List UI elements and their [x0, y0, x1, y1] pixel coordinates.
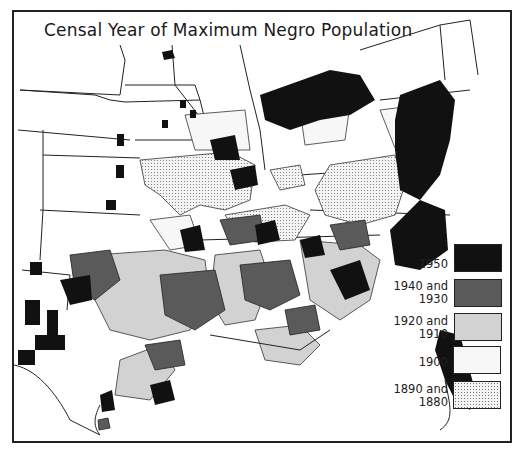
map-title: Censal Year of Maximum Negro Population [44, 20, 412, 40]
legend-swatch-1890-1880 [453, 381, 501, 409]
legend-label-1940-1930: 1940 and1930 [378, 280, 448, 306]
legend-label-1900: 1900 [378, 356, 448, 369]
legend-swatch-1940-1930 [454, 279, 502, 307]
legend-swatch-1900 [453, 346, 501, 374]
legend-label-1950: 1950 [378, 258, 448, 271]
legend-label-1920-1910: 1920 and1910 [378, 315, 448, 341]
region-1920-1910 [95, 240, 380, 400]
legend-label-1890-1880: 1890 and1880 [378, 383, 448, 409]
legend-swatch-1920-1910 [454, 313, 502, 341]
legend-swatch-1950 [454, 244, 502, 272]
